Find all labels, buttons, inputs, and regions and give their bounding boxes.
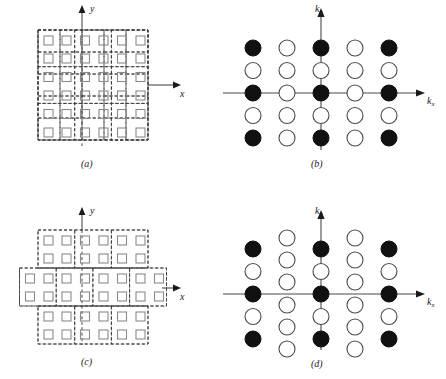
panel-b-ky-axis-label: ky	[315, 3, 323, 16]
panel-b: ky kx (b)	[223, 0, 446, 190]
panel-a: y x (a)	[0, 0, 223, 190]
figure-root: y x (a)	[0, 0, 446, 379]
panel-a-lattice-squares	[44, 36, 145, 137]
panel-a-x-axis-label: x	[180, 88, 184, 99]
panel-a-graphic	[0, 0, 223, 190]
panel-d-kx-axis-label: kx	[427, 296, 435, 309]
panel-b-spot-row-5	[245, 130, 397, 146]
panel-c: y x (c)	[0, 190, 223, 379]
panel-d-ky-axis-label: ky	[315, 205, 323, 218]
panel-b-caption: (b)	[311, 158, 323, 169]
panel-b-spot-row-2	[245, 63, 397, 79]
panel-d-graphic	[223, 190, 446, 379]
panel-c-caption: (c)	[81, 356, 92, 367]
panel-c-band-middle	[20, 268, 167, 306]
panel-a-unit-cells	[38, 30, 148, 140]
panel-b-spot-row-4	[245, 108, 397, 124]
panel-c-graphic	[0, 190, 223, 379]
panel-c-y-axis-label: y	[90, 205, 94, 216]
panel-a-x-axis	[148, 82, 181, 89]
panel-d-caption: (d)	[311, 358, 323, 369]
panel-c-band-top	[38, 230, 148, 268]
panel-c-y-axis	[79, 207, 86, 345]
panel-d-aligned-column-left	[245, 241, 261, 347]
panel-c-x-axis	[162, 285, 181, 292]
panel-b-graphic	[223, 0, 446, 190]
panel-d-aligned-column-right	[381, 241, 397, 347]
panel-b-kx-axis-label: kx	[427, 95, 435, 108]
panel-c-band-bottom	[38, 306, 148, 344]
panel-a-y-axis-label: y	[90, 3, 94, 14]
panel-d: ky kx (d)	[223, 190, 446, 379]
panel-d-aligned-column-center	[313, 241, 329, 347]
panel-a-caption: (a)	[81, 158, 93, 169]
panel-b-spot-row-1	[245, 40, 397, 56]
panel-c-x-axis-label: x	[180, 291, 184, 302]
